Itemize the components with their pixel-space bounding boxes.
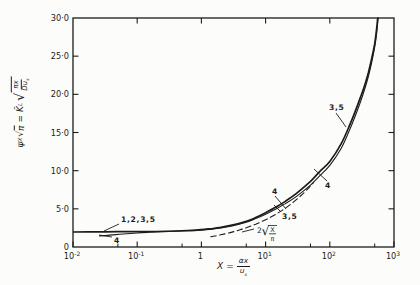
curve-annotation: 3,5 — [282, 212, 298, 221]
radicand-denominator: Dus — [22, 79, 30, 91]
psi-symbol: ψ — [15, 142, 25, 148]
x-fraction-denominator: us — [239, 267, 248, 276]
equals-sign: = — [226, 261, 234, 271]
x-tick-label: 102 — [322, 250, 336, 262]
sqrt-sign: √ — [15, 131, 25, 137]
y-tick-label: 5·0 — [56, 204, 69, 214]
series-curve-4 — [100, 18, 379, 236]
x-tick-label: 101 — [257, 250, 271, 262]
radicand-denominator-sub: s — [25, 79, 30, 81]
curve-annotation: 1,2,3,5 — [121, 215, 156, 224]
x-tick-label: 103 — [386, 250, 400, 262]
y-tick-label: 25·0 — [51, 51, 69, 61]
y-tick-label: 15·0 — [51, 128, 69, 138]
annotation-leader — [242, 229, 254, 232]
equals-sign: = — [15, 115, 25, 123]
radical-denominator: π — [271, 235, 275, 243]
y-tick-label: 20·0 — [51, 89, 69, 99]
annotation-leader — [104, 224, 119, 231]
x-axis-fraction: αxus — [237, 257, 250, 275]
x-axis-title: X=αxus — [217, 257, 250, 275]
pi-symbol: π — [14, 126, 26, 131]
radicand-fraction: πxDus — [11, 77, 29, 93]
curve-annotation: 4 — [272, 187, 278, 196]
kl-symbol: K̄ — [15, 106, 25, 112]
y-tick-label: 10·0 — [51, 166, 69, 176]
y-tick-label: 30·0 — [51, 13, 69, 23]
curve-annotation: 4 — [325, 181, 331, 190]
curve-annotation: 4 — [114, 236, 120, 245]
x-fraction-denominator-sub: s — [245, 271, 247, 276]
curves-group — [73, 18, 378, 237]
x-tick-label: 1 — [198, 251, 203, 261]
annotation-leader — [336, 113, 346, 127]
radical-sign: √ — [14, 93, 23, 101]
curve-annotation: 3,5 — [329, 103, 345, 112]
series-curves-1-2-3-5 — [73, 18, 378, 232]
chart-canvas: 05·010·015·020·025·030·010-210-111011021… — [0, 0, 420, 285]
y-axis-title: ψX√π=K̄L√πxDus — [11, 77, 29, 148]
x-variable: X — [217, 261, 223, 271]
figure-scanned-chart: 05·010·015·020·025·030·010-210-111011021… — [0, 0, 420, 285]
x-tick-label: 10-1 — [128, 250, 145, 262]
radicand-denominator-base: Du — [21, 81, 29, 91]
x-tick-label: 10-2 — [64, 250, 81, 262]
radical-numerator: X — [270, 226, 275, 234]
